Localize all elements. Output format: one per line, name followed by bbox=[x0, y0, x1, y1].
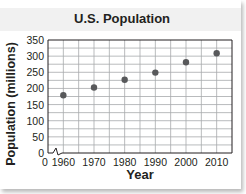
x-origin-label: 0 bbox=[42, 156, 48, 168]
data-point bbox=[91, 84, 97, 90]
y-tick-label: 100 bbox=[26, 115, 44, 127]
x-tick-label: 1960 bbox=[52, 156, 76, 168]
x-tick-label: 2000 bbox=[174, 156, 198, 168]
x-tick-label: 2010 bbox=[205, 156, 229, 168]
data-point bbox=[60, 92, 66, 98]
y-tick-label: 50 bbox=[32, 131, 44, 143]
x-tick-label: 1970 bbox=[82, 156, 106, 168]
scatter-plot: 0501001502002503003501960197019801990200… bbox=[0, 0, 246, 194]
y-tick-label: 300 bbox=[26, 50, 44, 62]
y-tick-label: 350 bbox=[26, 34, 44, 46]
x-tick-label: 1980 bbox=[113, 156, 137, 168]
data-point bbox=[152, 69, 158, 75]
x-tick-label: 1990 bbox=[144, 156, 168, 168]
y-tick-label: 200 bbox=[26, 82, 44, 94]
y-tick-label: 250 bbox=[26, 66, 44, 78]
axis-break-icon bbox=[48, 148, 62, 155]
y-tick-label: 150 bbox=[26, 99, 44, 111]
data-point bbox=[213, 50, 219, 56]
data-point bbox=[183, 59, 189, 65]
data-point bbox=[121, 77, 127, 83]
